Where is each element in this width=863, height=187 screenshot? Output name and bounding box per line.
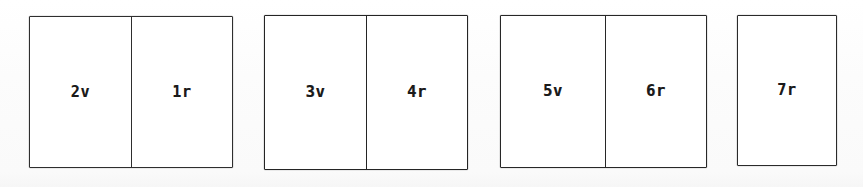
leaf-6r: 6r [605, 16, 706, 167]
quire-group-3: 5v 6r [500, 15, 707, 168]
quire-group-1: 2v 1r [29, 16, 233, 168]
quire-group-2: 3v 4r [264, 15, 468, 170]
leaf-label: 1r [172, 85, 191, 100]
leaf-4r: 4r [366, 16, 467, 169]
leaf-5v: 5v [501, 16, 605, 167]
leaf-7r: 7r [738, 16, 836, 165]
leaf-label: 3v [306, 85, 326, 101]
quire-collation-diagram: 2v 1r 3v 4r 5v 6r 7r [0, 0, 863, 187]
quire-group-4: 7r [737, 15, 837, 166]
leaf-label: 6r [646, 84, 666, 100]
leaf-label: 7r [777, 83, 796, 98]
leaf-3v: 3v [265, 16, 366, 169]
leaf-label: 5v [543, 84, 563, 100]
leaf-2v: 2v [30, 17, 131, 167]
leaf-1r: 1r [131, 17, 232, 167]
leaf-label: 2v [71, 85, 90, 100]
leaf-label: 4r [407, 85, 427, 101]
